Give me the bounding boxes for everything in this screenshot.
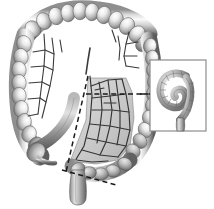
anatomical-figure: [0, 0, 214, 209]
rectum: [70, 170, 87, 205]
colon-resection-illustration: [0, 0, 214, 209]
rectum-body: [70, 170, 87, 205]
inset-detail-box: [150, 60, 206, 131]
inset-rectal-stump: [176, 118, 185, 131]
